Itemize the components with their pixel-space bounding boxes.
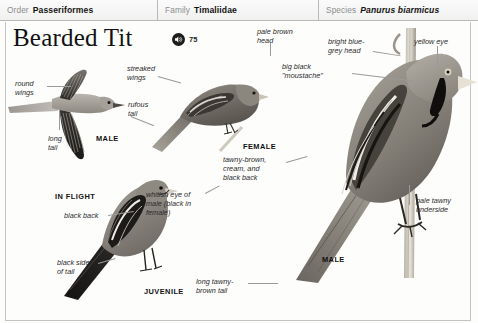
annotation-big-black-moustache: big black "moustache" <box>282 62 323 80</box>
plate-label-in-flight: IN FLIGHT <box>55 192 95 201</box>
field-guide-page: Order Passeriformes Family Timaliidae Sp… <box>0 0 478 323</box>
header-cell-family: Family Timaliidae <box>157 0 318 20</box>
taxon-name-order: Passeriformes <box>33 5 94 15</box>
header-cell-species: Species Panurus biarmicus <box>318 0 478 20</box>
plate-label-juvenile: JUVENILE <box>144 287 184 296</box>
leader-whitish-eye <box>205 185 220 193</box>
leader-long-tail <box>59 108 60 130</box>
plate-label-female: FEMALE <box>243 142 276 151</box>
rank-label-species: Species <box>326 5 356 15</box>
annotation-streaked-wings: streaked wings <box>127 64 155 82</box>
bird-illustration-juvenile <box>60 150 200 300</box>
bird-illustration-female <box>150 55 270 155</box>
annotation-bright-blue-grey-head: bright blue- grey head <box>328 37 365 55</box>
annotation-long-tawny-brown-tail: long tawny- brown tail <box>196 277 233 295</box>
annotation-whitish-eye: whitish eye of male (black in female) <box>146 190 191 218</box>
annotation-round-wings: round wings <box>15 79 34 97</box>
annotation-pale-tawny-underside: pale tawny underside <box>416 196 451 214</box>
header-cell-order: Order Passeriformes <box>0 0 157 20</box>
leader-pale-tawny-underside <box>409 185 410 205</box>
annotation-yellow-eye: yellow eye <box>414 37 448 46</box>
plate-label-male-flight: MALE <box>96 134 119 143</box>
audio-track-number: 75 <box>189 35 197 44</box>
annotation-long-tail: long tail <box>48 134 62 152</box>
leader-round-wings <box>47 86 71 87</box>
annotation-rufous-tail: rufous tail <box>128 100 148 118</box>
annotation-pale-brown-head: pale brown head <box>257 27 293 45</box>
page-title: Bearded Tit <box>13 24 133 52</box>
leader-long-tawny-brown-tail <box>248 283 278 284</box>
taxonomy-header: Order Passeriformes Family Timaliidae Sp… <box>0 0 478 21</box>
annotation-black-sides-of-tail: black sides of tail <box>57 258 93 276</box>
annotation-tawny-brown-back: tawny-brown, cream, and black back <box>223 155 266 183</box>
leader-yellow-eye <box>437 46 438 68</box>
taxon-name-species: Panurus biarmicus <box>360 5 439 15</box>
rank-label-family: Family <box>165 5 190 15</box>
plate-label-male-perched: MALE <box>322 255 345 264</box>
annotation-black-back: black back <box>64 211 98 220</box>
page-rule-bottom <box>5 320 471 321</box>
rank-label-order: Order <box>7 5 29 15</box>
page-rule-left <box>5 22 6 321</box>
taxon-name-family: Timaliidae <box>194 5 237 15</box>
speaker-icon[interactable] <box>172 33 185 46</box>
